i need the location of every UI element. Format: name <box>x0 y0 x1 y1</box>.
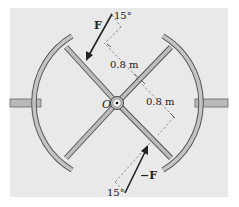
angle-top-label: 15° <box>114 10 132 21</box>
center-label-o: O <box>102 98 111 111</box>
force-f-label: F <box>94 19 102 32</box>
distance-label-1: 0.8 m <box>110 59 139 70</box>
force-neg-f-label: −F <box>140 169 157 182</box>
hub-pin <box>111 97 124 110</box>
distance-label-2: 0.8 m <box>146 96 175 107</box>
wheel-couple-diagram: O F 15° −F 15° 0.8 m 0.8 m <box>0 0 239 207</box>
angle-bottom-label: 15° <box>107 187 125 198</box>
